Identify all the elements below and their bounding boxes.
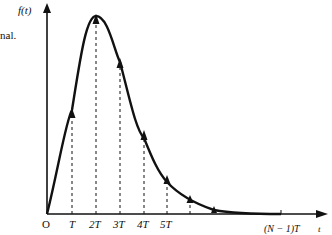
- x-axis-arrow-icon: [316, 210, 328, 218]
- sample-stems: [72, 22, 190, 214]
- tick-label: 5T: [160, 218, 173, 230]
- sample-arrowheads: [69, 14, 218, 213]
- origin-label: O: [42, 218, 50, 230]
- tick-label: T: [69, 218, 76, 230]
- caption-fragment: nal.: [0, 29, 16, 41]
- tick-label: 3T: [112, 218, 126, 230]
- tick-label: 4T: [137, 218, 150, 230]
- tick-label: (N − 1)T: [264, 223, 301, 235]
- sampled-signal-diagram: nal. f(t) t O T 2T 3T 4T 5T (N − 1)T: [0, 0, 332, 235]
- signal-curve: [47, 16, 281, 214]
- y-axis-label: f(t): [18, 4, 32, 17]
- sample-arrow-icon: [117, 58, 124, 68]
- y-axis-arrow-icon: [43, 3, 51, 13]
- x-axis-label: t: [318, 224, 321, 234]
- tick-label: 2T: [89, 218, 102, 230]
